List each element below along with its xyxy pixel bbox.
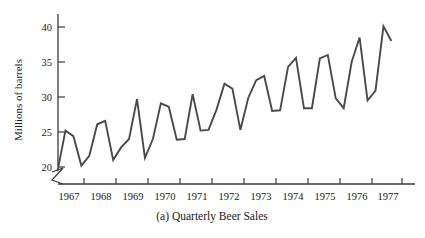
y-tick-label-20: 20 (42, 162, 53, 173)
x-axis: 1967 1968 1969 1970 1971 1972 1973 1974 … (58, 178, 415, 202)
x-tick-label-1973: 1973 (251, 191, 272, 202)
x-tick-label-1969: 1969 (123, 191, 144, 202)
x-tick-label-1967: 1967 (59, 191, 80, 202)
y-tick-label-30: 30 (42, 92, 53, 103)
x-tick-label-1972: 1972 (219, 191, 240, 202)
x-tick-label-1970: 1970 (155, 191, 176, 202)
y-axis-title: Millions of barrels (12, 59, 24, 141)
x-tick-label-1977: 1977 (378, 191, 399, 202)
y-tick-label-25: 25 (42, 127, 53, 138)
beer-sales-line-chart: 40 35 30 25 20 Millions of barrels 1967 … (0, 0, 425, 238)
figure-caption: (a) Quarterly Beer Sales (156, 210, 268, 223)
x-tick-label-1975: 1975 (315, 191, 336, 202)
y-tick-label-40: 40 (42, 22, 53, 33)
x-tick-label-1968: 1968 (91, 191, 112, 202)
y-tick-label-35: 35 (42, 57, 53, 68)
y-axis: 40 35 30 25 20 Millions of barrels (12, 14, 65, 184)
chart-figure: 40 35 30 25 20 Millions of barrels 1967 … (0, 0, 425, 238)
x-tick-label-1971: 1971 (187, 191, 208, 202)
x-tick-label-1974: 1974 (283, 191, 305, 202)
beer-sales-series-line (58, 26, 392, 171)
x-tick-label-1976: 1976 (347, 191, 368, 202)
